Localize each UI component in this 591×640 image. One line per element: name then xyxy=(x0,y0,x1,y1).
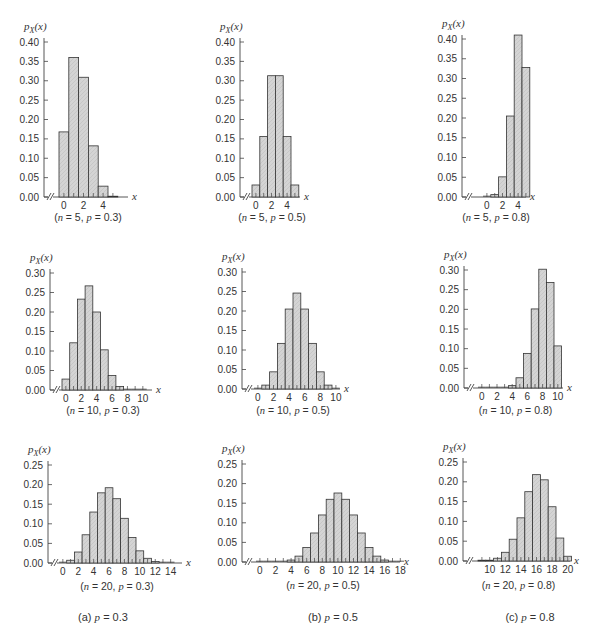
panel-caption: (n = 5, p = 0.3) xyxy=(54,211,122,223)
x-tick-label: 10 xyxy=(332,565,344,576)
y-tick-label: 0.40 xyxy=(20,37,40,48)
x-tick-label: 2 xyxy=(271,392,277,403)
y-axis-label: pX(x) xyxy=(23,20,47,35)
x-tick-label: 12 xyxy=(500,564,512,575)
panel-caption: (n = 5, p = 0.5) xyxy=(238,211,306,223)
x-tick-label: 10 xyxy=(552,391,564,402)
bar-x-3 xyxy=(85,286,93,390)
x-tick-label: 14 xyxy=(515,564,527,575)
x-tick-label: 12 xyxy=(150,566,162,577)
y-tick-label: 0.05 xyxy=(440,363,460,374)
y-tick-label: 0.05 xyxy=(218,537,238,548)
bar-x-7 xyxy=(113,499,121,563)
x-axis-label: x xyxy=(185,556,191,568)
bar-x-2 xyxy=(77,299,85,390)
bar-x-7 xyxy=(531,309,539,388)
x-tick-label: 0 xyxy=(63,393,69,404)
bar-x-1 xyxy=(260,137,268,197)
x-tick-label: 18 xyxy=(395,565,407,576)
bar-x-2 xyxy=(79,77,89,197)
y-tick-label: 0.25 xyxy=(439,457,459,468)
y-tick-label: 0.05 xyxy=(438,172,458,183)
bar-x-3 xyxy=(88,146,98,197)
bar-x-12 xyxy=(350,515,358,562)
x-tick-label: 0 xyxy=(253,200,259,211)
bar-x-8 xyxy=(318,515,326,562)
chart-panel-n5-p0.8: pX(x)0.000.050.100.150.200.250.300.350.4… xyxy=(438,17,535,223)
x-tick-label: 16 xyxy=(531,564,543,575)
y-tick-label: 0.30 xyxy=(26,268,46,279)
bar-x-17 xyxy=(540,480,548,561)
panel-caption: (n = 20, p = 0.3) xyxy=(80,580,154,592)
x-tick-label: 2 xyxy=(273,565,279,576)
chart-panel-n20-p0.5: pX(x)0.000.050.100.150.200.25x0246810121… xyxy=(218,442,409,591)
column-caption: (a) p = 0.3 xyxy=(78,611,128,623)
bar-x-5 xyxy=(101,350,109,390)
bar-x-10 xyxy=(554,346,562,388)
y-tick-label: 0.15 xyxy=(216,133,236,144)
x-tick-label: 0 xyxy=(257,565,263,576)
y-tick-label: 0.00 xyxy=(439,556,459,567)
bar-x-9 xyxy=(326,499,334,562)
y-tick-label: 0.25 xyxy=(216,95,236,106)
y-tick-label: 0.25 xyxy=(218,286,238,297)
y-tick-label: 0.15 xyxy=(20,133,40,144)
binomial-pmf-figure: pX(x)0.000.050.100.150.200.250.300.350.4… xyxy=(0,0,591,640)
x-tick-label: 4 xyxy=(515,200,521,211)
x-tick-label: 4 xyxy=(100,200,106,211)
x-tick-label: 2 xyxy=(78,393,84,404)
x-axis-label: x xyxy=(155,383,161,395)
y-tick-label: 0.20 xyxy=(26,307,46,318)
y-tick-label: 0.00 xyxy=(20,192,40,203)
panel-caption: (n = 10, p = 0.8) xyxy=(479,404,553,416)
bar-x-3 xyxy=(275,76,283,197)
y-tick-label: 0.25 xyxy=(218,459,238,470)
x-tick-label: 4 xyxy=(94,393,100,404)
chart-panel-n10-p0.5: pX(x)0.000.050.100.150.200.250.30x024681… xyxy=(218,250,349,416)
chart-panel-n5-p0.3: pX(x)0.000.050.100.150.200.250.300.350.4… xyxy=(20,20,137,223)
x-tick-label: 0 xyxy=(60,566,66,577)
x-tick-label: 18 xyxy=(547,564,559,575)
x-tick-label: 0 xyxy=(484,200,490,211)
bar-x-1 xyxy=(69,58,79,198)
y-tick-label: 0.30 xyxy=(20,75,40,86)
y-tick-label: 0.00 xyxy=(438,192,458,203)
y-tick-label: 0.10 xyxy=(24,518,44,529)
bar-x-13 xyxy=(357,533,365,562)
y-tick-label: 0.40 xyxy=(216,37,236,48)
y-tick-label: 0.25 xyxy=(440,284,460,295)
x-tick-label: 6 xyxy=(106,566,112,577)
y-tick-label: 0.15 xyxy=(439,496,459,507)
y-tick-label: 0.15 xyxy=(440,324,460,335)
y-tick-label: 0.15 xyxy=(218,498,238,509)
x-axis-label: x xyxy=(131,190,137,202)
y-tick-label: 0.20 xyxy=(440,304,460,315)
x-tick-label: 2 xyxy=(75,566,81,577)
column-caption: (c) p = 0.8 xyxy=(505,611,554,623)
x-axis-label: x xyxy=(566,381,572,393)
x-axis-label: x xyxy=(343,382,349,394)
bar-x-1 xyxy=(70,343,78,390)
y-axis-label: pX(x) xyxy=(219,20,243,35)
bar-x-9 xyxy=(546,283,554,388)
panel-caption: (n = 10, p = 0.5) xyxy=(256,404,330,416)
y-tick-label: 0.30 xyxy=(438,73,458,84)
y-axis-label: pX(x) xyxy=(443,248,467,263)
x-tick-label: 14 xyxy=(364,565,376,576)
x-tick-label: 0 xyxy=(479,391,485,402)
x-tick-label: 12 xyxy=(348,565,360,576)
chart-panel-n10-p0.8: pX(x)0.000.050.100.150.200.250.30x024681… xyxy=(440,248,572,416)
chart-panel-n20-p0.3: pX(x)0.000.050.100.150.200.25x0246810121… xyxy=(24,443,191,592)
x-tick-label: 4 xyxy=(286,392,292,403)
x-tick-label: 8 xyxy=(318,392,324,403)
y-axis-label: pX(x) xyxy=(27,443,51,458)
panel-caption: (n = 5, p = 0.8) xyxy=(462,211,530,223)
x-tick-label: 20 xyxy=(562,564,574,575)
x-tick-label: 6 xyxy=(304,565,310,576)
y-tick-label: 0.15 xyxy=(26,326,46,337)
y-tick-label: 0.35 xyxy=(216,56,236,67)
y-tick-label: 0.30 xyxy=(218,267,238,278)
bar-x-0 xyxy=(59,132,69,197)
bar-x-5 xyxy=(522,67,530,197)
x-tick-label: 2 xyxy=(269,200,275,211)
